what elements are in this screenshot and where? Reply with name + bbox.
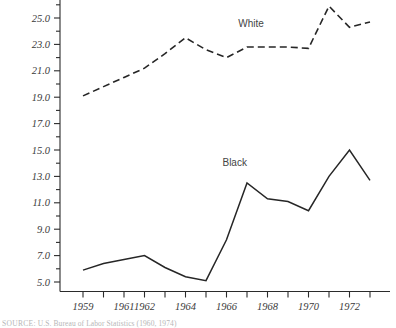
- y-tick-label: 15.0: [32, 145, 51, 156]
- y-tick-label: 19.0: [32, 92, 51, 103]
- series-label-white: White: [238, 18, 264, 29]
- x-tick-label: 1972: [339, 301, 361, 312]
- y-tick-label: 21.0: [32, 65, 51, 76]
- y-tick-label: 25.0: [32, 13, 51, 24]
- y-tick-label: 7.0: [37, 250, 51, 261]
- y-tick-label: 5.0: [37, 277, 51, 288]
- y-tick-label: 17.0: [32, 118, 51, 129]
- series-layer: [83, 6, 370, 281]
- series-label-black: Black: [222, 157, 247, 168]
- y-tick-label: 11.0: [32, 197, 50, 208]
- x-axis: 19591961196219641966196819701972: [60, 292, 390, 312]
- y-tick-label: 9.0: [37, 224, 51, 235]
- source-note: SOURCE: U.S. Bureau of Labor Statistics …: [2, 319, 177, 328]
- source-text: U.S. Bureau of Labor Statistics (1960, 1…: [38, 319, 177, 328]
- source-kicker: SOURCE:: [2, 319, 36, 328]
- series-line-white: [83, 6, 370, 96]
- x-tick-label: 1961: [114, 301, 135, 312]
- x-tick-label: 1959: [73, 301, 95, 312]
- series-annotations: WhiteBlack: [222, 18, 264, 168]
- x-tick-label: 1964: [175, 301, 197, 312]
- y-tick-label: 23.0: [32, 39, 51, 50]
- y-tick-label: 13.0: [32, 171, 51, 182]
- x-tick-label: 1962: [134, 301, 156, 312]
- x-tick-label: 1966: [216, 301, 238, 312]
- series-line-black: [83, 150, 370, 281]
- x-tick-label: 1970: [298, 301, 320, 312]
- x-tick-label: 1968: [257, 301, 279, 312]
- y-axis: 5.07.09.011.013.015.017.019.021.023.025.…: [32, 0, 60, 292]
